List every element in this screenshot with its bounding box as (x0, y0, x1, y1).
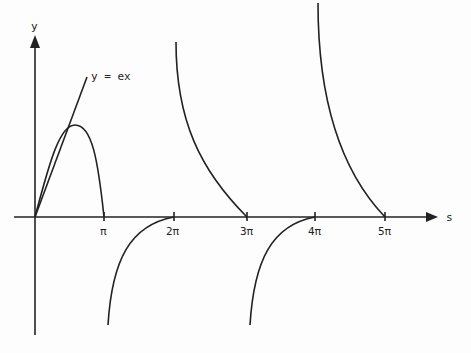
tick-label-3pi: 3π (240, 225, 253, 238)
y-axis-label: y (31, 20, 38, 33)
branch-1-upper (176, 42, 247, 217)
line-y-ex (35, 77, 87, 217)
branch-1-lower (108, 217, 174, 325)
diagram: y s y = ex π 2π 3π 4π 5π (0, 0, 471, 353)
x-arrow-icon (426, 212, 438, 222)
branch-2-upper (318, 3, 385, 217)
branch-2-lower (250, 217, 315, 325)
plot-svg (0, 0, 471, 353)
tick-label-5pi: 5π (378, 225, 391, 238)
x-axis-label: s (446, 211, 453, 224)
tick-label-2pi: 2π (166, 225, 179, 238)
hump-curve (35, 125, 104, 217)
tick-label-4pi: 4π (308, 225, 321, 238)
line-label: y = ex (91, 70, 131, 83)
tick-label-pi: π (100, 225, 107, 238)
y-arrow-icon (30, 35, 40, 48)
